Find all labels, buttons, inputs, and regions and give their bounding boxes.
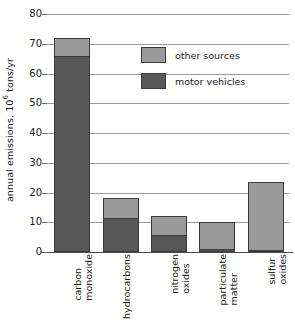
emissions-stacked-bar-chart: annual emissions, 106 tons/yr 0102030405…	[0, 0, 295, 325]
y-tick-label-10: 10	[29, 217, 42, 227]
x-label-text-particulate-matter: particulatematter	[217, 254, 239, 305]
x-label-line1: hydrocarbons	[121, 254, 132, 319]
y-tick-label-60: 60	[29, 69, 42, 79]
y-axis-tick-labels: 01020304050607080	[22, 0, 42, 325]
bar-segment-other-sources-particulate-matter	[199, 222, 235, 250]
x-label-text-nitrogen-oxides: nitrogenoxides	[169, 254, 191, 294]
bar-segment-other-sources-hydrocarbons	[103, 198, 139, 219]
bar-segment-motor-vehicles-carbon-monoxide	[54, 56, 90, 252]
x-label-line2: matter	[228, 254, 239, 305]
x-label-carbon-monoxide: carbonmonoxide	[54, 254, 90, 325]
legend-swatch-motor-vehicles-icon	[141, 73, 166, 89]
legend-item-motor-vehicles: motor vehicles	[141, 70, 291, 92]
x-label-line1: nitrogen	[169, 254, 180, 294]
tick-mark-70	[42, 44, 47, 45]
y-axis-title-prefix: annual emissions, 10	[4, 100, 15, 203]
gridline-80	[47, 14, 289, 15]
bar-segment-motor-vehicles-hydrocarbons	[103, 218, 139, 253]
x-label-text-hydrocarbons: hydrocarbons	[121, 254, 132, 319]
tick-mark-20	[42, 193, 47, 194]
x-label-hydrocarbons: hydrocarbons	[103, 254, 139, 325]
tick-mark-10	[42, 222, 47, 223]
bar-hydrocarbons	[103, 198, 139, 252]
bar-particulate-matter	[199, 222, 235, 252]
legend-label-motor-vehicles: motor vehicles	[175, 76, 245, 87]
tick-mark-50	[42, 103, 47, 104]
bar-segment-other-sources-sulfur-oxides	[248, 182, 284, 251]
x-label-line2: oxides	[180, 254, 191, 294]
tick-mark-60	[42, 74, 47, 75]
y-tick-label-20: 20	[29, 188, 42, 198]
x-label-particulate-matter: particulatematter	[199, 254, 235, 325]
x-axis-line	[41, 252, 293, 253]
bar-segment-other-sources-nitrogen-oxides	[151, 216, 187, 235]
x-label-text-carbon-monoxide: carbonmonoxide	[72, 254, 94, 301]
x-label-line1: particulate	[217, 254, 228, 305]
y-axis-title-exponent: 6	[2, 95, 10, 100]
y-axis-title-suffix: tons/yr	[4, 58, 15, 95]
y-tick-label-50: 50	[29, 98, 42, 108]
x-label-text-sulfur-oxides: sulfuroxides	[266, 254, 288, 285]
bar-nitrogen-oxides	[151, 216, 187, 252]
x-axis-category-labels: carbonmonoxidehydrocarbonsnitrogenoxides…	[47, 254, 289, 325]
y-tick-label-40: 40	[29, 128, 42, 138]
x-label-line1: sulfur	[266, 258, 277, 285]
legend-item-other-sources: other sources	[141, 44, 291, 66]
y-tick-label-30: 30	[29, 158, 42, 168]
y-axis-title: annual emissions, 106 tons/yr	[0, 0, 18, 260]
y-tick-label-70: 70	[29, 39, 42, 49]
legend-label-other-sources: other sources	[175, 50, 240, 61]
x-label-sulfur-oxides: sulfuroxides	[248, 254, 284, 325]
x-label-nitrogen-oxides: nitrogenoxides	[151, 254, 187, 325]
bar-segment-other-sources-carbon-monoxide	[54, 38, 90, 57]
y-axis-title-text: annual emissions, 106 tons/yr	[4, 58, 15, 202]
x-label-line1: carbon	[72, 268, 83, 301]
bar-carbon-monoxide	[54, 38, 90, 252]
y-tick-label-80: 80	[29, 9, 42, 19]
x-label-line2: oxides	[277, 254, 288, 285]
bar-segment-motor-vehicles-nitrogen-oxides	[151, 235, 187, 252]
x-label-line2: monoxide	[83, 254, 94, 301]
tick-mark-0	[42, 252, 47, 253]
chart-legend: other sources motor vehicles	[141, 44, 291, 96]
tick-mark-40	[42, 133, 47, 134]
tick-mark-80	[42, 14, 47, 15]
tick-mark-30	[42, 163, 47, 164]
legend-swatch-other-sources-icon	[141, 47, 166, 63]
bar-sulfur-oxides	[248, 182, 284, 252]
